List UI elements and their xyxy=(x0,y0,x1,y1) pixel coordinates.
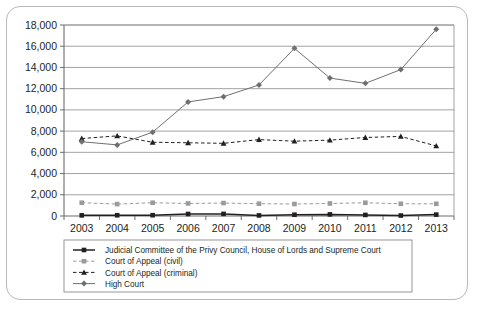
y-axis-tick-label: 12,000 xyxy=(25,82,57,94)
legend-label: Court of Appeal (civil) xyxy=(105,257,183,266)
data-point-marker xyxy=(257,213,262,218)
y-axis-tick-label: 14,000 xyxy=(25,61,57,73)
data-point-marker xyxy=(399,201,404,206)
data-point-marker xyxy=(79,213,84,218)
series-group-0 xyxy=(79,212,438,218)
x-axis-tick-label: 2007 xyxy=(212,222,236,234)
line-chart: 02,0004,0006,0008,00010,00012,00014,0001… xyxy=(7,7,469,301)
x-axis-tick-label: 2012 xyxy=(389,222,413,234)
data-point-marker xyxy=(114,133,120,138)
series-group-2 xyxy=(79,133,439,148)
data-point-marker xyxy=(115,213,120,218)
data-point-marker xyxy=(79,200,84,205)
legend-label: Judicial Committee of the Privy Council,… xyxy=(105,246,381,255)
chart-figure-frame: 02,0004,0006,0008,00010,00012,00014,0001… xyxy=(6,6,468,300)
data-point-marker xyxy=(434,201,439,206)
y-axis-tick-label: 6,000 xyxy=(31,146,57,158)
chart-container: 02,0004,0006,0008,00010,00012,00014,0001… xyxy=(7,7,469,301)
data-point-marker xyxy=(221,212,226,217)
y-axis-tick-label: 18,000 xyxy=(25,19,57,31)
y-axis-tick-label: 10,000 xyxy=(25,103,57,115)
chart-legend: Judicial Committee of the Privy Council,… xyxy=(64,240,412,292)
gridlines: 02,0004,0006,0008,00010,00012,00014,0001… xyxy=(25,19,454,222)
data-point-marker xyxy=(150,200,155,205)
data-point-marker xyxy=(82,248,87,253)
x-axis-tick-label: 2003 xyxy=(70,222,94,234)
legend-label: High Court xyxy=(105,280,145,289)
data-point-marker xyxy=(363,213,368,218)
data-point-marker xyxy=(186,201,191,206)
x-axis-tick-label: 2006 xyxy=(176,222,200,234)
data-point-marker xyxy=(328,201,333,206)
data-point-marker xyxy=(221,94,227,100)
x-axis-tick-label: 2010 xyxy=(318,222,342,234)
data-point-marker xyxy=(115,202,120,207)
x-axis-tick-label: 2013 xyxy=(425,222,449,234)
x-axis-tick-label: 2008 xyxy=(247,222,271,234)
data-point-marker xyxy=(434,212,439,217)
y-axis-tick-label: 2,000 xyxy=(31,188,57,200)
y-axis-tick-label: 0 xyxy=(51,210,57,222)
series-group-3 xyxy=(79,26,440,148)
y-axis-tick-label: 4,000 xyxy=(31,167,57,179)
x-axis-ticks: 2003200420052006200720082009201020112012… xyxy=(64,216,454,234)
y-axis-tick-label: 8,000 xyxy=(31,125,57,137)
legend-entry-0[interactable]: Judicial Committee of the Privy Council,… xyxy=(73,246,381,255)
data-point-marker xyxy=(399,213,404,218)
data-point-marker xyxy=(82,259,87,264)
data-point-marker xyxy=(114,142,120,148)
data-point-marker xyxy=(150,213,155,218)
data-point-marker xyxy=(186,212,191,217)
x-axis-tick-label: 2011 xyxy=(354,222,377,234)
x-axis-tick-label: 2004 xyxy=(106,222,130,234)
y-axis-tick-label: 16,000 xyxy=(25,40,57,52)
data-point-marker xyxy=(328,212,333,217)
data-point-marker xyxy=(257,201,262,206)
legend-label: Court of Appeal (criminal) xyxy=(105,269,198,278)
series-group-1 xyxy=(79,200,438,206)
data-point-marker xyxy=(362,80,368,86)
x-axis-tick-label: 2009 xyxy=(283,222,307,234)
data-point-marker xyxy=(363,200,368,205)
data-point-marker xyxy=(292,202,297,207)
data-point-marker xyxy=(221,201,226,206)
x-axis-tick-label: 2005 xyxy=(141,222,165,234)
data-point-marker xyxy=(292,212,297,217)
